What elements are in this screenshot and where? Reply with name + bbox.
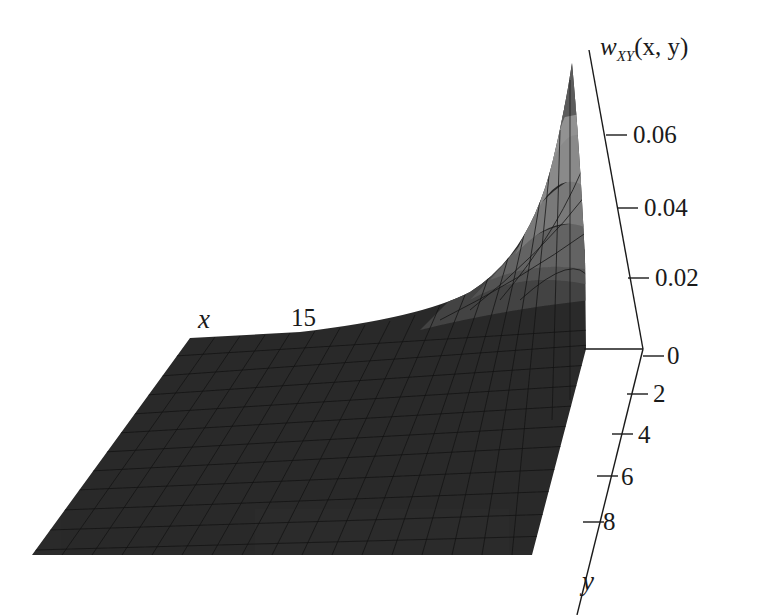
z-axis-label-sub: XY bbox=[617, 48, 635, 64]
y-tick-4: 4 bbox=[638, 422, 651, 447]
z-axis-label-base: w bbox=[600, 33, 617, 60]
z-axis bbox=[589, 50, 643, 349]
z-axis-label-args: (x, y) bbox=[634, 33, 688, 60]
z-tick-0.02: 0.02 bbox=[655, 265, 699, 290]
y-tick-8: 8 bbox=[603, 509, 616, 534]
x-tick-15: 15 bbox=[291, 305, 316, 330]
z-axis-label: wXY(x, y) bbox=[600, 34, 688, 59]
z-tick-0.06: 0.06 bbox=[633, 122, 677, 147]
z-tick-0.04: 0.04 bbox=[644, 195, 688, 220]
surface-plot bbox=[0, 0, 763, 615]
y-axis-label: y bbox=[582, 568, 594, 595]
y-tick-6: 6 bbox=[621, 464, 634, 489]
y-tick-2: 2 bbox=[653, 381, 666, 406]
x-axis-label: x bbox=[198, 306, 210, 333]
z-tick-0: 0 bbox=[667, 343, 680, 368]
